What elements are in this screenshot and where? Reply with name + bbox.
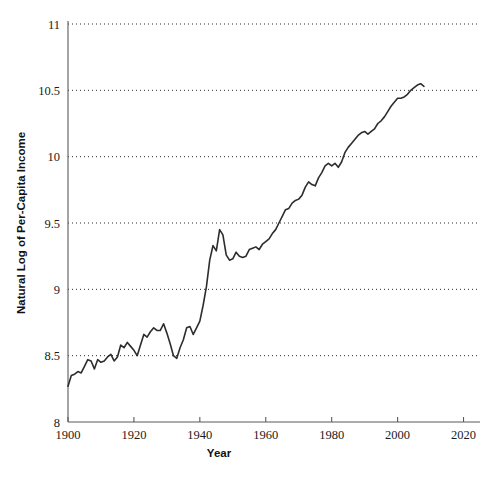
- data-series-line: [68, 84, 424, 386]
- x-tick-label: 1920: [121, 428, 146, 442]
- x-axis-title: Year: [207, 447, 232, 459]
- x-axis-ticks-group: [68, 417, 464, 422]
- x-tick-label: 1960: [253, 428, 278, 442]
- y-axis-tick-labels-group: 88.599.51010.511: [38, 18, 60, 430]
- gridlines-group: [68, 24, 480, 356]
- y-tick-label: 10: [48, 150, 61, 164]
- x-axis-tick-labels-group: 1900192019401960198020002020: [56, 428, 477, 442]
- y-tick-label: 9: [54, 283, 60, 297]
- x-tick-label: 2000: [385, 428, 410, 442]
- x-tick-label: 1980: [319, 428, 344, 442]
- y-axis-title: Natural Log of Per-Capita Income: [15, 132, 27, 314]
- x-tick-label: 2020: [451, 428, 476, 442]
- x-tick-label: 1940: [187, 428, 212, 442]
- y-tick-label: 9.5: [44, 217, 60, 231]
- line-chart: 88.599.51010.511 19001920194019601980200…: [0, 0, 501, 477]
- chart-container: 88.599.51010.511 19001920194019601980200…: [0, 0, 501, 477]
- x-tick-label: 1900: [56, 428, 81, 442]
- y-tick-label: 10.5: [38, 84, 60, 98]
- axis-lines-group: [68, 21, 480, 422]
- y-tick-label: 8.5: [44, 349, 60, 363]
- y-tick-label: 11: [48, 18, 60, 32]
